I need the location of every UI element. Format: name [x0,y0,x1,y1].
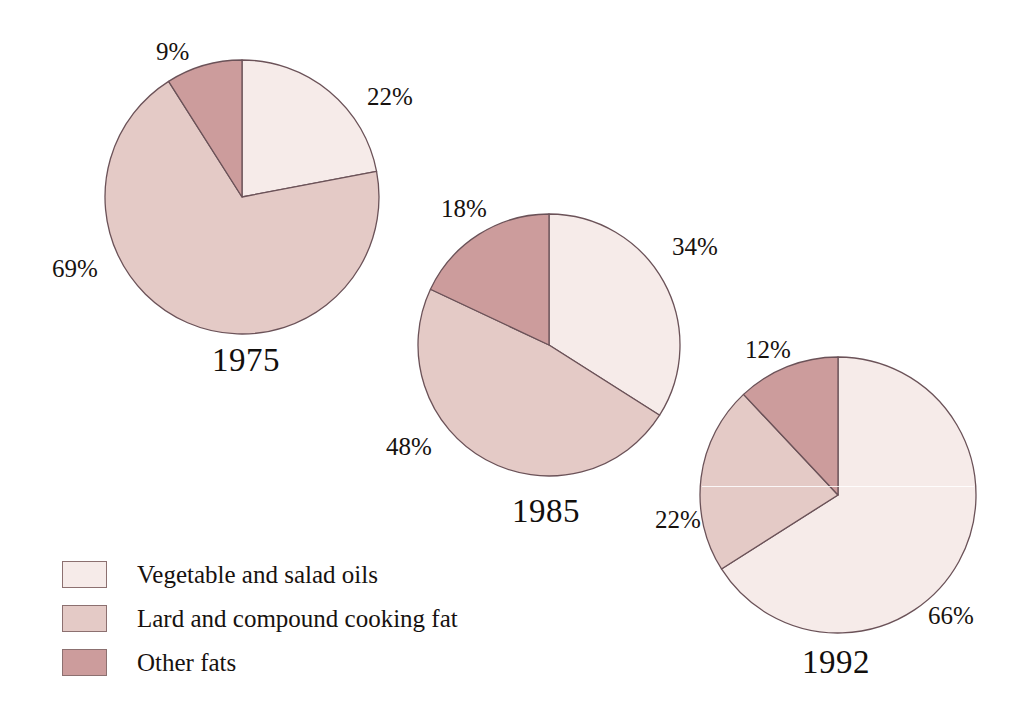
legend-item-lard-and-compound-cooking-fat: Lard and compound cooking fat [62,596,458,640]
pie-chart-1992 [697,354,979,636]
percent-label-1985-other-fats: 18% [441,196,487,221]
pie-svg-1985 [415,211,683,479]
legend-item-other-fats: Other fats [62,640,458,684]
pie-svg-1975 [102,57,382,337]
percent-label-1975-lard-and-compound-cooking-fat: 69% [52,256,98,281]
legend-label-lard-and-compound-cooking-fat: Lard and compound cooking fat [137,606,458,631]
pie-svg-1992 [697,354,979,636]
legend-item-vegetable-and-salad-oils: Vegetable and salad oils [62,552,458,596]
legend-swatch-lard-and-compound-cooking-fat [62,605,107,632]
legend-label-vegetable-and-salad-oils: Vegetable and salad oils [137,562,378,587]
year-label-1992: 1992 [802,646,870,679]
year-label-1975: 1975 [212,344,280,377]
legend-label-other-fats: Other fats [137,650,236,675]
year-label-1985: 1985 [512,495,580,528]
pie-chart-1985 [415,211,683,479]
percent-label-1992-vegetable-and-salad-oils: 66% [928,603,974,628]
percent-label-1985-vegetable-and-salad-oils: 34% [672,234,718,259]
percent-label-1985-lard-and-compound-cooking-fat: 48% [386,434,432,459]
legend-swatch-other-fats [62,649,107,676]
percent-label-1992-other-fats: 12% [745,337,791,362]
percent-label-1975-vegetable-and-salad-oils: 22% [367,84,413,109]
scan-artifact-line [702,486,974,487]
percent-label-1992-lard-and-compound-cooking-fat: 22% [655,507,701,532]
percent-label-1975-other-fats: 9% [156,39,189,64]
pie-chart-1975 [102,57,382,337]
legend-swatch-vegetable-and-salad-oils [62,561,107,588]
pie-chart-figure: Vegetable and salad oils Lard and compou… [0,0,1024,712]
legend: Vegetable and salad oils Lard and compou… [62,552,458,684]
